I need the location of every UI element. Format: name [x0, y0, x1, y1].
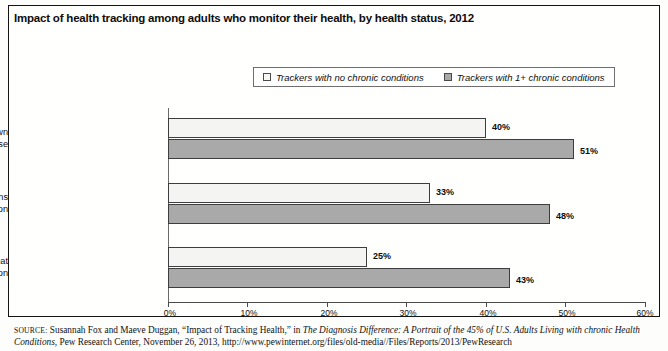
x-tick-label: 20%: [320, 308, 337, 318]
x-tick-label: 0%: [164, 308, 176, 318]
x-tick-label: 30%: [399, 308, 416, 318]
x-tick-50: [565, 302, 566, 307]
legend-item-with-chronic[interactable]: Trackers with 1+ chronic conditions: [444, 72, 605, 83]
x-tick-0: [168, 302, 169, 307]
x-tick-label: 10%: [240, 308, 257, 318]
legend-item-no-chronic[interactable]: Trackers with no chronic conditions: [263, 72, 424, 83]
legend-label: Trackers with no chronic conditions: [276, 72, 424, 83]
bar-value-g0-no-chronic: 40%: [492, 122, 510, 132]
bar-g0-no-chronic[interactable]: [168, 118, 486, 138]
chart-title: Impact of health tracking among adults w…: [14, 12, 634, 24]
source-line2-plain: , Pew Research Center, November 26, 2013…: [55, 337, 512, 347]
source-line1-plain: Susannah Fox and Maeve Duggan, “Impact o…: [47, 325, 302, 335]
x-tick-label: 50%: [558, 308, 575, 318]
bar-g2-no-chronic[interactable]: [168, 247, 367, 267]
figure-root: Impact of health tracking among adults w…: [0, 0, 668, 351]
bar-value-g2-with-chronic: 43%: [516, 275, 534, 285]
bar-g0-with-chronic[interactable]: [168, 139, 574, 159]
bar-g1-no-chronic[interactable]: [168, 183, 430, 203]
x-tick-label: 60%: [636, 308, 653, 318]
source-label: source:: [14, 326, 47, 335]
bar-value-g1-with-chronic: 48%: [556, 211, 574, 221]
bar-g2-with-chronic[interactable]: [168, 268, 510, 288]
chart-legend: Trackers with no chronic conditions Trac…: [253, 67, 615, 87]
source-line1-italic: The Diagnosis Difference: A Portrait of …: [303, 325, 582, 335]
x-tick-10: [247, 302, 248, 307]
bar-value-g0-with-chronic: 51%: [580, 146, 598, 156]
source-note: source: Susannah Fox and Maeve Duggan, “…: [14, 325, 654, 348]
x-tick-40: [486, 302, 487, 307]
bar-value-g2-no-chronic: 25%: [373, 251, 391, 261]
category-label-0: Changed overall approach to own health o…: [0, 127, 8, 150]
legend-label: Trackers with 1+ chronic conditions: [457, 72, 605, 83]
bar-value-g1-no-chronic: 33%: [436, 187, 454, 197]
x-tick-30: [406, 302, 407, 307]
category-label-2: Affected a decision about how to treat a…: [0, 256, 8, 279]
category-label-1: Led them to ask a doctor new questions o…: [0, 192, 8, 215]
bar-g1-with-chronic[interactable]: [168, 204, 550, 224]
legend-swatch-icon: [263, 73, 271, 81]
legend-swatch-icon: [444, 73, 452, 81]
x-tick-20: [327, 302, 328, 307]
x-tick-60: [645, 302, 646, 307]
x-tick-label: 40%: [479, 308, 496, 318]
